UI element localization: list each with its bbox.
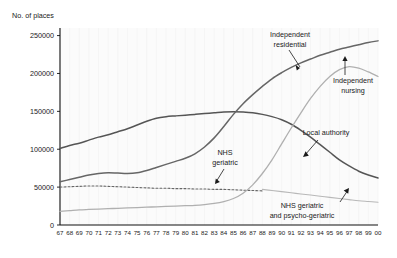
x-tick-label: 79 — [172, 229, 179, 236]
x-tick-label: 67 — [57, 229, 64, 236]
annotation-local-authority-line1: Local authority — [303, 128, 350, 137]
x-tick-label: 72 — [105, 229, 112, 236]
chart-figure: No. of places 05000010000015000020000025… — [0, 0, 397, 258]
x-tick-label: 81 — [191, 229, 198, 236]
annotation-nhs-geriatric-line1: NHS — [217, 148, 232, 157]
x-tick-label: 68 — [66, 229, 73, 236]
annotation-independent-nursing-line1: Independent — [333, 76, 373, 85]
plot-background — [60, 28, 378, 225]
x-tick-label: 95 — [326, 229, 333, 236]
line-chart-svg: No. of places 05000010000015000020000025… — [0, 0, 397, 258]
x-tick-label: 98 — [355, 229, 362, 236]
x-axis-ticks: 6768697071727374757677787980818283848586… — [57, 229, 382, 236]
x-tick-label: 74 — [124, 229, 131, 236]
y-tick-label: 250000 — [30, 31, 54, 40]
x-tick-label: 94 — [317, 229, 324, 236]
x-tick-label: 90 — [278, 229, 285, 236]
x-tick-label: 97 — [346, 229, 353, 236]
y-tick-label: 200000 — [30, 69, 54, 78]
x-tick-label: 87 — [249, 229, 256, 236]
x-tick-label: 76 — [143, 229, 150, 236]
y-axis-title: No. of places — [12, 11, 54, 20]
x-tick-label: 89 — [269, 229, 276, 236]
x-tick-label: 96 — [336, 229, 343, 236]
y-axis-ticks: 050000100000150000200000250000 — [30, 31, 60, 229]
x-tick-label: 00 — [375, 229, 382, 236]
y-tick-label: 100000 — [30, 145, 54, 154]
y-tick-label: 50000 — [34, 183, 54, 192]
x-tick-label: 86 — [240, 229, 247, 236]
x-tick-label: 75 — [134, 229, 141, 236]
x-tick-label: 82 — [201, 229, 208, 236]
y-tick-label: 150000 — [30, 107, 54, 116]
x-tick-label: 85 — [230, 229, 237, 236]
x-tick-label: 99 — [365, 229, 372, 236]
x-tick-label: 77 — [153, 229, 160, 236]
x-tick-label: 70 — [85, 229, 92, 236]
x-tick-label: 84 — [220, 229, 227, 236]
x-tick-label: 69 — [76, 229, 83, 236]
annotation-nhs-geriatric-psycho-line2: and psycho-geriatric — [270, 211, 335, 220]
x-tick-label: 91 — [288, 229, 295, 236]
annotation-independent-nursing-line2: nursing — [341, 86, 365, 95]
annotation-independent-residential-line1: Independent — [270, 30, 310, 39]
x-tick-label: 92 — [297, 229, 304, 236]
annotation-nhs-geriatric-psycho-line1: NHS geriatric — [281, 201, 324, 210]
annotation-independent-residential-line2: residential — [274, 40, 307, 49]
x-tick-label: 78 — [163, 229, 170, 236]
y-tick-label: 0 — [50, 221, 54, 230]
x-tick-label: 83 — [211, 229, 218, 236]
annotation-nhs-geriatric-line2: geriatric — [212, 158, 238, 167]
x-tick-label: 88 — [259, 229, 266, 236]
x-tick-label: 71 — [95, 229, 102, 236]
x-tick-label: 73 — [114, 229, 121, 236]
x-tick-label: 80 — [182, 229, 189, 236]
x-tick-label: 93 — [307, 229, 314, 236]
